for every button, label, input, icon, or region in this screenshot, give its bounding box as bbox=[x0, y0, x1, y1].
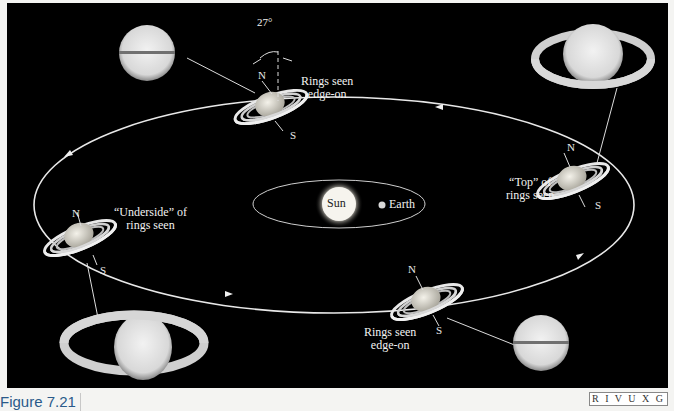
south-pole-label: S bbox=[436, 324, 442, 336]
earth bbox=[379, 202, 386, 209]
photo-rings-top-view bbox=[535, 24, 651, 85]
saturn-orbit-diagram: 27° Rings seen edge-on N S “Top” of ring… bbox=[7, 3, 668, 388]
figure-caption: Figure 7.21 bbox=[0, 393, 81, 411]
orbit-arrow-icon bbox=[225, 291, 233, 297]
south-pole-label: S bbox=[290, 129, 296, 141]
north-pole-label: N bbox=[258, 69, 266, 81]
earth-label: Earth bbox=[389, 198, 415, 211]
photo-edge-on-top-left bbox=[119, 25, 175, 81]
south-pole-label: S bbox=[100, 264, 106, 276]
north-pole-label: N bbox=[72, 207, 80, 219]
north-pole-label: N bbox=[567, 141, 575, 153]
orbit-arrow-icon bbox=[576, 253, 584, 260]
label-left-position: “Underside” of rings seen bbox=[114, 206, 187, 232]
north-pole-label: N bbox=[408, 263, 416, 275]
label-top-position: Rings seen edge-on bbox=[301, 75, 353, 101]
sun-label: Sun bbox=[327, 197, 346, 210]
photo-rings-underside-view bbox=[64, 314, 204, 380]
tilt-angle-label: 27° bbox=[257, 16, 272, 29]
label-bottom-position: Rings seen edge-on bbox=[364, 326, 416, 352]
saturn-top bbox=[230, 80, 310, 130]
tilt-angle-arc bbox=[260, 52, 278, 58]
saturn-bottom bbox=[386, 274, 466, 327]
waveband-indicator: R I V U X G bbox=[589, 392, 668, 406]
photo-edge-on-bottom-right bbox=[513, 315, 569, 371]
south-pole-label: S bbox=[595, 199, 601, 211]
orbit-arrow-icon bbox=[435, 104, 443, 110]
orbit-arrow-icon bbox=[64, 150, 73, 157]
label-right-position: “Top” of rings seen bbox=[506, 176, 554, 202]
